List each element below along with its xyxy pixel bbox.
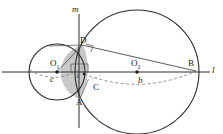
label-point-D: D <box>80 36 87 45</box>
label-point-O2: O2 <box>131 59 141 70</box>
segment-D-left <box>49 45 82 46</box>
label-point-O1-subscript: 1 <box>57 64 60 70</box>
label-segment-1: 1 <box>76 73 80 80</box>
pointer-to-C <box>88 74 103 80</box>
point-O2-dot <box>135 70 138 73</box>
label-point-A: A <box>76 98 83 107</box>
label-arc-b: b <box>138 76 143 85</box>
geometry-figure: m l O1 O2 D A C B c b 1 <box>0 0 223 134</box>
label-line-l: l <box>212 66 215 75</box>
label-arc-c: c <box>50 75 54 84</box>
label-point-O2-subscript: 2 <box>138 64 141 70</box>
label-point-O1: O1 <box>50 59 60 70</box>
label-point-C: C <box>93 83 99 92</box>
label-line-m: m <box>72 5 79 14</box>
point-C-dot <box>83 73 86 76</box>
right-angle-marker-upper <box>86 44 93 52</box>
point-O1-dot <box>55 70 58 73</box>
label-point-B: B <box>188 59 194 68</box>
